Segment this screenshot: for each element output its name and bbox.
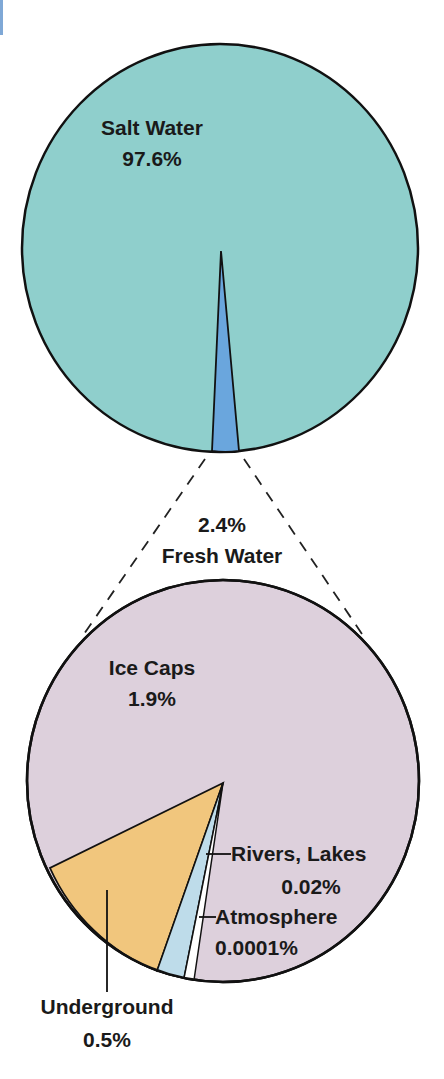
atmosphere-label: Atmosphere [215, 905, 338, 928]
underground-label: Underground [41, 995, 174, 1018]
underground-value: 0.5% [83, 1028, 131, 1051]
salt-water-value: 97.6% [122, 147, 182, 170]
rivers-lakes-label: Rivers, Lakes [231, 842, 366, 865]
salt-water-label: Salt Water [101, 116, 203, 139]
ice-caps-value: 1.9% [128, 687, 176, 710]
water-distribution-chart: Salt Water 97.6% 2.4% Fresh Water Ice Ca… [0, 0, 444, 1079]
fresh-water-label: Fresh Water [162, 544, 283, 567]
atmosphere-value: 0.0001% [215, 936, 298, 959]
rivers-lakes-value: 0.02% [281, 875, 341, 898]
bottom-pie: Ice Caps 1.9% Rivers, Lakes 0.02% Atmosp… [27, 580, 419, 1051]
fresh-water-value: 2.4% [198, 513, 246, 536]
top-pie: Salt Water 97.6% [22, 44, 418, 452]
ice-caps-label: Ice Caps [109, 656, 195, 679]
